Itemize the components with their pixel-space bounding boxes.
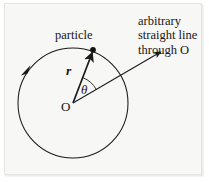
particle-dot (90, 47, 96, 53)
annotation-line-2: straight line (138, 28, 197, 42)
physics-diagram-figure: particle arbitrary straight line through… (0, 0, 209, 182)
arbitrary-line-annotation: arbitrary straight line through O (138, 14, 197, 57)
annotation-line-1: arbitrary (138, 14, 197, 28)
annotation-line-3: through O (138, 43, 197, 57)
origin-label: O (61, 100, 70, 114)
radius-vector-label: r (66, 64, 71, 78)
particle-label: particle (55, 29, 92, 42)
angle-label: θ (81, 83, 87, 97)
